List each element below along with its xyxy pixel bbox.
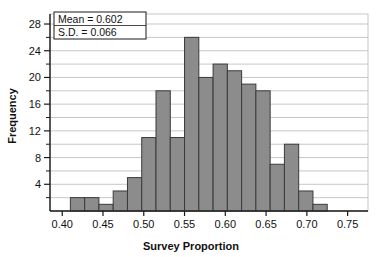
histogram-bar (127, 178, 141, 211)
histogram-bar (85, 198, 99, 211)
y-tick-label: 8 (35, 152, 41, 164)
histogram-bar (185, 37, 199, 211)
x-tick-label: 0.70 (296, 218, 317, 230)
annotation-std-dev: S.D. = 0.066 (58, 26, 117, 38)
histogram-bar (227, 71, 241, 211)
histogram-bar (170, 138, 184, 211)
y-tick-label: 4 (35, 178, 41, 190)
x-tick-label: 0.40 (52, 218, 73, 230)
histogram-bar (156, 91, 170, 211)
x-tick-label: 0.50 (133, 218, 154, 230)
statistics-annotation-box: Mean = 0.602S.D. = 0.066 (54, 12, 146, 39)
histogram-chart: 0.400.450.500.550.600.650.700.75 4812162… (0, 0, 383, 257)
y-tick-label: 16 (29, 98, 41, 110)
x-tick-label: 0.60 (215, 218, 236, 230)
annotation-mean: Mean = 0.602 (58, 13, 123, 25)
x-tick-label: 0.55 (174, 218, 195, 230)
y-tick-label: 24 (29, 45, 41, 57)
histogram-bar (242, 84, 256, 211)
y-tick-label: 20 (29, 71, 41, 83)
y-tick-label: 28 (29, 18, 41, 30)
histogram-bar (113, 191, 127, 211)
histogram-bar (142, 138, 156, 211)
histogram-bar (270, 164, 284, 211)
histogram-bar (299, 191, 313, 211)
x-tick-label: 0.45 (92, 218, 113, 230)
histogram-bar (70, 198, 84, 211)
histogram-bar (256, 91, 270, 211)
histogram-bar (313, 204, 327, 211)
histogram-bar (99, 204, 113, 211)
x-tick-label: 0.75 (337, 218, 358, 230)
y-axis-title: Frequency (6, 87, 18, 144)
histogram-bar (199, 77, 213, 211)
histogram-bar (213, 64, 227, 211)
histogram-bar (284, 144, 298, 211)
y-tick-label: 12 (29, 125, 41, 137)
x-axis-title: Survey Proportion (143, 240, 239, 252)
x-tick-label: 0.65 (255, 218, 276, 230)
chart-canvas: 0.400.450.500.550.600.650.700.75 4812162… (0, 0, 383, 257)
